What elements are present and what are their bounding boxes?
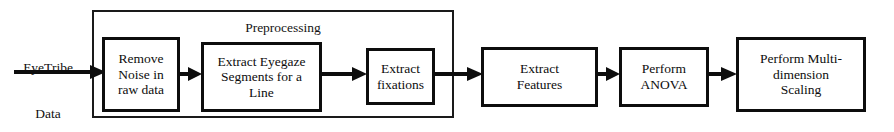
node-remove-noise[interactable]: Remove Noise in raw data: [102, 37, 180, 112]
arrow-anova-to-mds: [709, 66, 737, 82]
node-extract-eyegaze-segments[interactable]: Extract Eyegaze Segments for a Line: [201, 42, 322, 112]
arrow-features-to-anova: [598, 66, 620, 82]
eyetribe-data-input-label: EyeTribe Data (30 Hz): [4, 44, 92, 132]
preprocessing-group-label: Preprocessing: [213, 21, 353, 35]
node-extract-eyegaze-segments-label: Extract Eyegaze Segments for a Line: [214, 54, 308, 101]
node-perform-mds-label: Perform Multi- dimension Scaling: [757, 51, 845, 98]
node-perform-anova-label: Perform ANOVA: [637, 61, 690, 92]
source-line-2: Data: [4, 106, 92, 122]
arrow-fixations-to-features: [435, 66, 483, 82]
arrow-remove-noise-to-segments: [180, 66, 202, 82]
node-extract-features-label: Extract Features: [514, 61, 566, 92]
node-extract-fixations[interactable]: Extract fixations: [366, 48, 435, 105]
node-perform-mds[interactable]: Perform Multi- dimension Scaling: [736, 37, 866, 112]
arrow-segments-to-fixations: [322, 66, 367, 82]
arrow-source-to-remove-noise: [14, 64, 106, 80]
node-extract-fixations-label: Extract fixations: [374, 61, 427, 92]
flowchart-diagram: Preprocessing EyeTribe Data (30 Hz) Remo…: [0, 0, 894, 132]
node-perform-anova[interactable]: Perform ANOVA: [619, 47, 709, 107]
node-extract-features[interactable]: Extract Features: [481, 47, 598, 107]
node-remove-noise-label: Remove Noise in raw data: [115, 51, 167, 98]
